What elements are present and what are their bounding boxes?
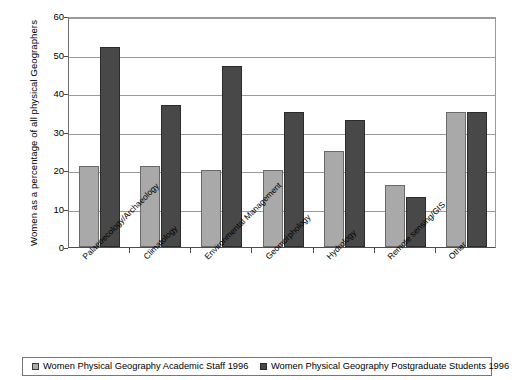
y-tick-label: 20 <box>34 166 64 176</box>
bar-chart-figure: Women as a percentage of all physical Ge… <box>0 0 514 380</box>
y-tick-label: 40 <box>34 89 64 99</box>
x-tick-mark <box>435 248 436 253</box>
legend-label: Women Physical Geography Postgraduate St… <box>271 361 509 372</box>
bar <box>263 170 283 247</box>
bar <box>201 170 221 247</box>
chart-legend: Women Physical Geography Academic Staff … <box>22 357 492 376</box>
x-tick-mark <box>374 248 375 253</box>
y-tick-mark <box>64 171 68 172</box>
bar <box>446 112 466 247</box>
x-tick-mark <box>129 248 130 253</box>
y-tick-label: 60 <box>34 12 64 22</box>
bar <box>467 112 487 247</box>
y-tick-mark <box>64 248 68 249</box>
y-tick-label: 10 <box>34 205 64 215</box>
legend-entry: Women Physical Geography Postgraduate St… <box>260 361 509 372</box>
x-tick-mark <box>190 248 191 253</box>
x-tick-mark <box>313 248 314 253</box>
y-tick-label: 0 <box>34 243 64 253</box>
bar <box>324 151 344 247</box>
y-tick-label: 50 <box>34 51 64 61</box>
bar <box>140 166 160 247</box>
y-tick-mark <box>64 56 68 57</box>
dark-square-icon <box>260 363 267 370</box>
y-tick-mark <box>64 94 68 95</box>
y-tick-mark <box>64 17 68 18</box>
x-tick-mark <box>251 248 252 253</box>
legend-label: Women Physical Geography Academic Staff … <box>43 361 248 372</box>
y-tick-label: 30 <box>34 128 64 138</box>
legend-entry: Women Physical Geography Academic Staff … <box>32 361 248 372</box>
bar <box>345 120 365 247</box>
y-tick-mark <box>64 210 68 211</box>
y-tick-mark <box>64 133 68 134</box>
light-square-icon <box>32 363 39 370</box>
bar <box>79 166 99 247</box>
